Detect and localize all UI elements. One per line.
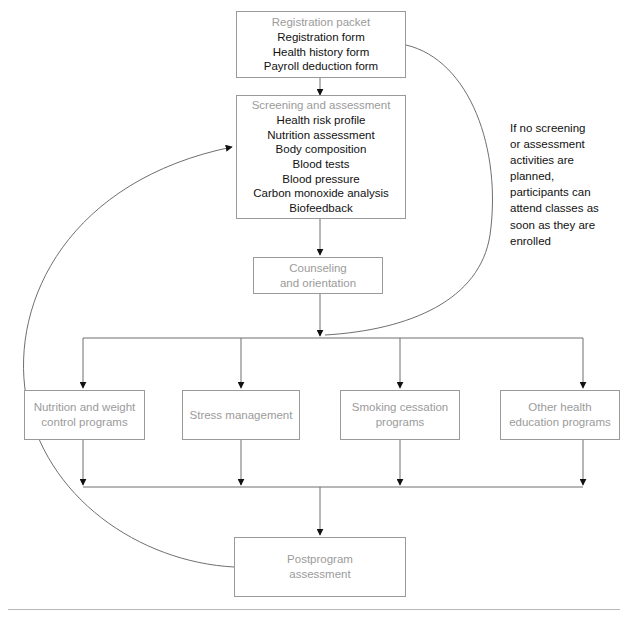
connector-layer <box>0 0 628 622</box>
node-registration-packet-items: Registration form Health history form Pa… <box>264 30 378 74</box>
node-registration-packet-title: Registration packet <box>272 15 370 30</box>
node-screening-and-assessment-title: Screening and assessment <box>252 98 391 113</box>
node-smoking-cessation-programs-title: Smoking cessation programs <box>352 400 449 429</box>
node-registration-packet[interactable]: Registration packet Registration form He… <box>236 11 406 78</box>
node-counseling-and-orientation-title: Counseling and orientation <box>280 261 356 290</box>
connector-feedback-postprogram-to-screening <box>24 147 234 567</box>
node-counseling-and-orientation[interactable]: Counseling and orientation <box>253 257 383 294</box>
node-smoking-cessation-programs[interactable]: Smoking cessation programs <box>340 390 460 440</box>
node-postprogram-assessment[interactable]: Postprogram assessment <box>234 537 406 597</box>
node-stress-management-title: Stress management <box>190 408 293 423</box>
node-nutrition-and-weight-control-programs-title: Nutrition and weight control programs <box>34 400 136 429</box>
node-other-health-education-programs-title: Other health education programs <box>509 400 611 429</box>
node-nutrition-and-weight-control-programs[interactable]: Nutrition and weight control programs <box>24 390 145 440</box>
flowchart-diagram: Registration packet Registration form He… <box>0 0 628 622</box>
node-postprogram-assessment-title: Postprogram assessment <box>287 552 353 581</box>
node-screening-and-assessment-items: Health risk profile Nutrition assessment… <box>253 113 389 216</box>
node-screening-and-assessment[interactable]: Screening and assessment Health risk pro… <box>236 95 406 219</box>
node-stress-management[interactable]: Stress management <box>182 390 300 440</box>
footer-rule <box>8 609 620 610</box>
annotation-no-screening-note: If no screening or assessment activities… <box>510 120 622 249</box>
node-other-health-education-programs[interactable]: Other health education programs <box>500 390 620 440</box>
